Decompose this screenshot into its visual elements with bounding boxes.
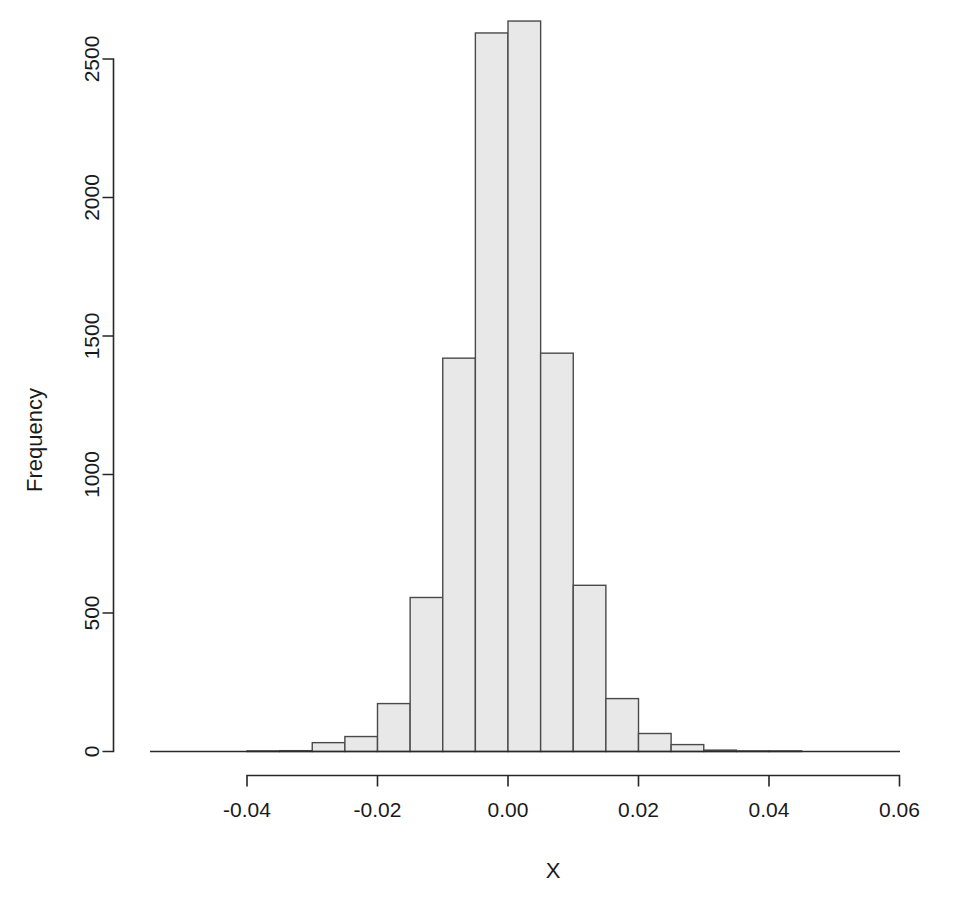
histogram-bar: [508, 21, 541, 751]
x-axis-title: X: [546, 858, 561, 883]
y-tick-label: 2000: [80, 174, 103, 221]
x-axis: -0.04-0.020.000.020.040.06: [223, 776, 920, 821]
histogram-chart: 05001000150020002500 -0.04-0.020.000.020…: [0, 0, 953, 907]
histogram-bar: [312, 743, 345, 752]
histogram-bar: [475, 33, 508, 752]
x-tick-label: 0.06: [879, 798, 920, 821]
x-tick-label: -0.02: [354, 798, 402, 821]
histogram-bar: [410, 597, 443, 751]
histogram-bar: [606, 699, 639, 752]
histogram-bar: [378, 704, 411, 752]
histogram-bar: [443, 358, 476, 751]
x-tick-label: 0.04: [749, 798, 790, 821]
y-tick-label: 2500: [80, 36, 103, 83]
histogram-bars: [247, 21, 802, 751]
y-axis-title: Frequency: [22, 388, 47, 492]
histogram-bar: [541, 353, 574, 751]
y-axis-line: [103, 59, 114, 752]
histogram-plot-panel: 05001000150020002500 -0.04-0.020.000.020…: [0, 0, 953, 907]
histogram-bar: [671, 745, 704, 752]
y-tick-label: 0: [80, 746, 103, 758]
histogram-bar: [345, 737, 378, 752]
y-tick-label: 1000: [80, 451, 103, 498]
x-tick-label: 0.02: [618, 798, 659, 821]
y-axis: 05001000150020002500: [80, 36, 113, 758]
y-tick-label: 1500: [80, 313, 103, 360]
histogram-bar: [639, 734, 672, 752]
y-tick-label: 500: [80, 595, 103, 630]
x-tick-label: 0.00: [488, 798, 529, 821]
x-axis-line: [247, 776, 900, 787]
histogram-bar: [573, 585, 606, 751]
x-tick-label: -0.04: [223, 798, 271, 821]
